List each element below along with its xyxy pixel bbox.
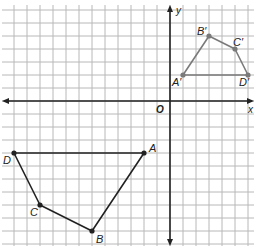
vertex-point-D (11, 150, 16, 155)
coordinate-plane: yxOABCDA′B′C′D′ (0, 0, 259, 250)
vertex-label-D′: D′ (239, 76, 250, 88)
x-axis-label: x (247, 104, 254, 115)
vertex-point-C (37, 202, 42, 207)
vertex-label-B: B (96, 233, 103, 245)
x-axis-arrow-left-icon (2, 98, 9, 104)
grid-lines (2, 5, 254, 246)
vertex-point-A (141, 150, 146, 155)
vertex-label-A: A (148, 142, 156, 154)
origin-label: O (156, 104, 164, 115)
y-axis-arrow-up-icon (167, 5, 173, 12)
vertex-label-B′: B′ (197, 25, 207, 37)
labels: yxOABCDA′B′C′D′ (3, 5, 254, 245)
vertex-label-C′: C′ (233, 36, 244, 48)
vertex-label-A′: A′ (171, 76, 182, 88)
vertex-point-B (89, 228, 94, 233)
vertex-label-D: D (3, 154, 11, 166)
y-axis-arrow-down-icon (167, 239, 173, 246)
vertex-label-C: C (30, 206, 38, 218)
y-axis-label: y (175, 5, 182, 16)
vertex-point-B′ (206, 33, 211, 38)
